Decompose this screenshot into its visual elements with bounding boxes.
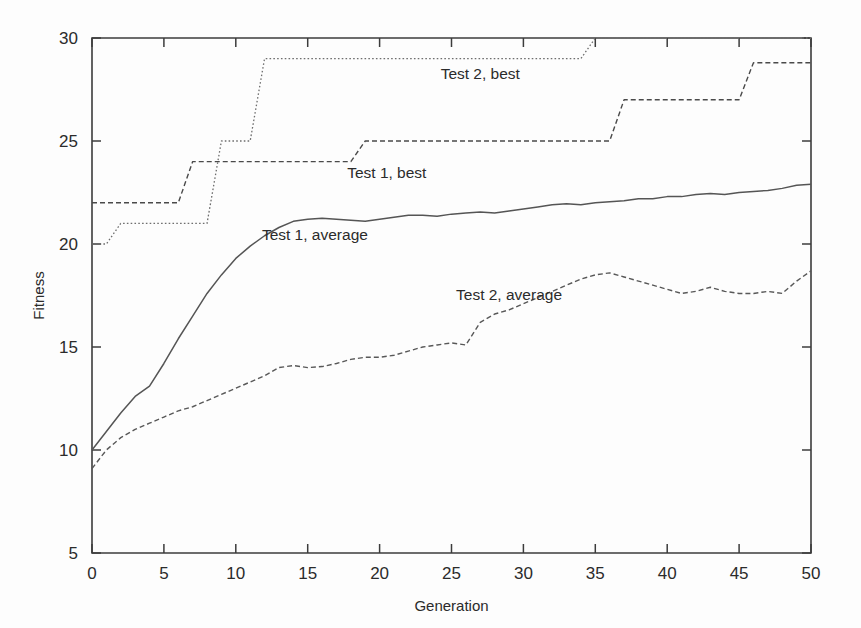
y-tick-label: 10 [59,441,78,460]
series-line-test-1-average [92,184,811,450]
series-label-test-2-average: Test 2, average [456,286,562,303]
series-label-test-2-best: Test 2, best [441,65,521,82]
y-axis-title: Fitness [30,271,47,319]
x-tick-label: 30 [514,564,533,583]
x-tick-label: 20 [370,564,389,583]
fitness-line-chart: 0510152025303540455051015202530Generatio… [0,0,861,628]
series-label-test-1-best: Test 1, best [347,164,427,181]
chart-figure: 0510152025303540455051015202530Generatio… [0,0,861,628]
x-tick-label: 5 [159,564,168,583]
x-tick-label: 50 [802,564,821,583]
x-tick-label: 40 [658,564,677,583]
x-tick-label: 35 [586,564,605,583]
y-tick-label: 30 [59,29,78,48]
x-axis-title: Generation [414,597,488,614]
x-tick-label: 15 [298,564,317,583]
y-tick-label: 15 [59,338,78,357]
series-label-test-1-average: Test 1, average [262,226,368,243]
plot-frame [92,38,811,553]
y-tick-label: 20 [59,235,78,254]
series-line-test-2-average [92,271,811,469]
y-tick-label: 5 [69,544,78,563]
x-tick-label: 0 [87,564,96,583]
x-tick-label: 45 [730,564,749,583]
y-tick-label: 25 [59,132,78,151]
series-line-test-1-best [92,63,811,203]
x-tick-label: 10 [226,564,245,583]
x-tick-label: 25 [442,564,461,583]
